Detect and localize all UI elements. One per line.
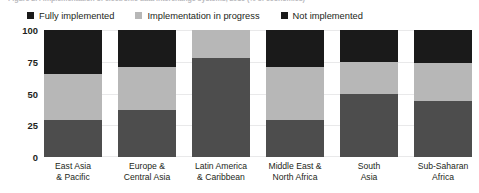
x-axis-label-line1: Sub-Saharan xyxy=(406,161,479,172)
x-axis-label-line2: North Africa xyxy=(258,172,332,183)
x-axis-label-east-asia-pacific: East Asia & Pacific xyxy=(36,161,110,182)
y-axis-tick-25: 25 xyxy=(6,121,38,130)
legend-item-fully-implemented[interactable]: Fully implemented xyxy=(27,11,114,21)
y-axis: 100 75 50 25 0 xyxy=(0,30,38,157)
x-axis-label-line1: Middle East & xyxy=(258,161,332,172)
figure-title: Figure 2.4 Implementation of electronic … xyxy=(8,0,468,4)
bar-stack xyxy=(192,30,250,157)
x-axis-label-line2: & Caribbean xyxy=(184,172,258,183)
bar-segment-implementation-in-progress xyxy=(44,74,102,120)
bar-column-east-asia-pacific[interactable] xyxy=(44,30,102,157)
x-axis-label-line2: Asia xyxy=(332,172,406,183)
bar-stack xyxy=(118,30,176,157)
legend-item-not-implemented[interactable]: Not implemented xyxy=(281,11,363,21)
bar-column-middle-east-north-africa[interactable] xyxy=(266,30,324,157)
legend-label: Implementation in progress xyxy=(147,11,259,21)
legend-swatch-icon xyxy=(27,12,34,19)
y-axis-tick-75: 75 xyxy=(6,58,38,67)
legend-label: Fully implemented xyxy=(39,11,114,21)
x-axis-label-line1: Latin America xyxy=(184,161,258,172)
bar-segment-fully-implemented xyxy=(340,94,398,158)
x-axis-label-europe-central-asia: Europe & Central Asia xyxy=(110,161,184,182)
bar-group xyxy=(44,30,472,157)
bar-segment-not-implemented xyxy=(266,30,324,67)
chart-figure: Figure 2.4 Implementation of electronic … xyxy=(0,0,479,193)
bar-stack xyxy=(44,30,102,157)
x-axis-categories: East Asia & Pacific Europe & Central Asi… xyxy=(44,161,472,182)
bar-segment-implementation-in-progress xyxy=(414,63,472,101)
x-axis-label-line2: Central Asia xyxy=(110,172,184,183)
legend-label: Not implemented xyxy=(293,11,363,21)
bar-segment-not-implemented xyxy=(340,30,398,62)
bar-stack xyxy=(414,30,472,157)
x-axis-label-south-asia: South Asia xyxy=(332,161,406,182)
bar-segment-fully-implemented xyxy=(44,120,102,157)
bar-stack xyxy=(266,30,324,157)
bar-segment-implementation-in-progress xyxy=(340,62,398,94)
chart-legend: Fully implemented Implementation in prog… xyxy=(27,9,384,22)
bar-segment-implementation-in-progress xyxy=(192,30,250,58)
bar-segment-implementation-in-progress xyxy=(266,67,324,120)
x-axis-label-line1: East Asia xyxy=(36,161,110,172)
x-axis-label-line2: Africa xyxy=(406,172,479,183)
x-axis-label-line2: & Pacific xyxy=(36,172,110,183)
bar-segment-not-implemented xyxy=(118,30,176,67)
legend-item-implementation-in-progress[interactable]: Implementation in progress xyxy=(135,11,259,21)
y-axis-tick-0: 0 xyxy=(6,153,38,162)
bar-segment-implementation-in-progress xyxy=(118,67,176,110)
x-axis-label-sub-saharan-africa: Sub-Saharan Africa xyxy=(406,161,479,182)
bar-stack xyxy=(340,30,398,157)
bar-segment-fully-implemented xyxy=(118,110,176,157)
bar-column-south-asia[interactable] xyxy=(340,30,398,157)
bar-column-sub-saharan-africa[interactable] xyxy=(414,30,472,157)
x-axis-label-line1: South xyxy=(332,161,406,172)
bar-segment-fully-implemented xyxy=(414,101,472,157)
bar-segment-not-implemented xyxy=(414,30,472,63)
bar-column-europe-central-asia[interactable] xyxy=(118,30,176,157)
x-axis-label-line1: Europe & xyxy=(110,161,184,172)
plot-area xyxy=(44,30,472,157)
y-axis-tick-50: 50 xyxy=(6,90,38,99)
bar-segment-not-implemented xyxy=(44,30,102,74)
bar-segment-fully-implemented xyxy=(192,58,250,157)
bar-segment-fully-implemented xyxy=(266,120,324,157)
legend-swatch-icon xyxy=(135,12,142,19)
y-axis-tick-100: 100 xyxy=(6,26,38,35)
x-axis-label-middle-east-north-africa: Middle East & North Africa xyxy=(258,161,332,182)
x-axis-label-latin-america-caribbean: Latin America & Caribbean xyxy=(184,161,258,182)
legend-swatch-icon xyxy=(281,12,288,19)
bar-column-latin-america-caribbean[interactable] xyxy=(192,30,250,157)
